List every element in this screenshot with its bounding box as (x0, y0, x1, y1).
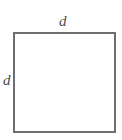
left-side-length-label: d (3, 73, 11, 88)
square-diagram: d d (0, 0, 122, 140)
square-outline (13, 32, 116, 133)
top-side-length-label: d (59, 14, 67, 29)
